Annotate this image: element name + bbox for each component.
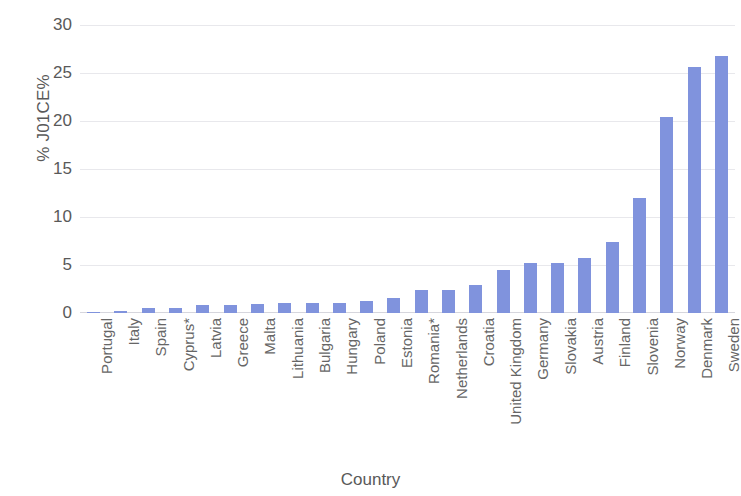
x-axis-tick-slot: Sweden <box>708 318 735 458</box>
bar[interactable] <box>578 258 591 313</box>
bar-slot <box>599 25 626 313</box>
x-axis-tick-slot: Lithuania <box>271 318 298 458</box>
bar-slot <box>271 25 298 313</box>
x-axis-tick-slot: Estonia <box>380 318 407 458</box>
bar-slot <box>517 25 544 313</box>
y-axis-tick: 30 <box>30 15 72 35</box>
x-axis-tick-slot: Romania* <box>408 318 435 458</box>
bar[interactable] <box>251 304 264 313</box>
bar[interactable] <box>278 303 291 313</box>
bar[interactable] <box>169 308 182 313</box>
bar-slot <box>135 25 162 313</box>
x-axis-tick-slot: Finland <box>599 318 626 458</box>
x-axis-tick-slot: Netherlands <box>435 318 462 458</box>
bar-series <box>80 25 735 313</box>
x-axis-tick-slot: Hungary <box>326 318 353 458</box>
bar-slot <box>462 25 489 313</box>
x-axis-tick: Sweden <box>726 318 741 372</box>
x-axis-tick-slot: Slovakia <box>544 318 571 458</box>
x-axis-tick-slot: Malta <box>244 318 271 458</box>
bar-slot <box>189 25 216 313</box>
x-axis-title: Country <box>0 470 741 490</box>
x-axis-tick-slot: Slovenia <box>626 318 653 458</box>
bar-slot <box>244 25 271 313</box>
x-axis-tick-slot: Norway <box>653 318 680 458</box>
bar[interactable] <box>142 308 155 313</box>
x-axis-tick-slot: Portugal <box>80 318 107 458</box>
bar-slot <box>653 25 680 313</box>
y-axis-tick: 0 <box>30 303 72 323</box>
y-axis-tick: 25 <box>30 63 72 83</box>
x-axis-tick-slot: United Kingdom <box>489 318 516 458</box>
x-axis-tick-slot: Denmark <box>681 318 708 458</box>
y-axis-tick: 5 <box>30 255 72 275</box>
bar-slot <box>107 25 134 313</box>
bar-slot <box>544 25 571 313</box>
bar[interactable] <box>715 56 728 313</box>
bar[interactable] <box>333 303 346 313</box>
bar-slot <box>380 25 407 313</box>
x-axis-tick-slot: Spain <box>135 318 162 458</box>
x-axis-tick-slot: Bulgaria <box>298 318 325 458</box>
bar[interactable] <box>360 301 373 313</box>
x-axis-tick-slot: Croatia <box>462 318 489 458</box>
bar[interactable] <box>551 263 564 313</box>
y-axis-tick: 10 <box>30 207 72 227</box>
bar[interactable] <box>306 303 319 313</box>
bar[interactable] <box>660 117 673 313</box>
bar[interactable] <box>469 285 482 313</box>
bar-slot <box>216 25 243 313</box>
x-axis-tick-slot: Italy <box>107 318 134 458</box>
bar[interactable] <box>114 311 127 313</box>
bar-slot <box>626 25 653 313</box>
bar[interactable] <box>497 270 510 313</box>
y-axis-tick: 20 <box>30 111 72 131</box>
bar-slot <box>353 25 380 313</box>
bar-slot <box>681 25 708 313</box>
bar-slot <box>298 25 325 313</box>
bar[interactable] <box>387 298 400 313</box>
bar-chart: % J01CE% 051015202530 PortugalItalySpain… <box>0 0 741 496</box>
x-axis-tick-slot: Latvia <box>189 318 216 458</box>
bar-slot <box>571 25 598 313</box>
x-axis-tick-slot: Austria <box>571 318 598 458</box>
bar[interactable] <box>633 198 646 313</box>
bar[interactable] <box>196 305 209 313</box>
bar-slot <box>408 25 435 313</box>
x-axis-tick-slot: Germany <box>517 318 544 458</box>
bar[interactable] <box>224 305 237 313</box>
y-axis-tick: 15 <box>30 159 72 179</box>
bar-slot <box>326 25 353 313</box>
plot-area <box>80 25 735 313</box>
bar-slot <box>80 25 107 313</box>
x-axis-tick-labels: PortugalItalySpainCyprus*LatviaGreeceMal… <box>80 318 735 458</box>
x-axis-tick-slot: Poland <box>353 318 380 458</box>
bar[interactable] <box>688 67 701 313</box>
x-axis-tick-slot: Cyprus* <box>162 318 189 458</box>
bar[interactable] <box>415 290 428 313</box>
bar[interactable] <box>87 312 100 313</box>
bar-slot <box>162 25 189 313</box>
bar-slot <box>708 25 735 313</box>
bar-slot <box>435 25 462 313</box>
bar[interactable] <box>442 290 455 313</box>
y-axis-tick-labels: 051015202530 <box>30 0 72 330</box>
x-axis-tick-slot: Greece <box>216 318 243 458</box>
bar[interactable] <box>606 242 619 313</box>
bar[interactable] <box>524 263 537 313</box>
bar-slot <box>489 25 516 313</box>
